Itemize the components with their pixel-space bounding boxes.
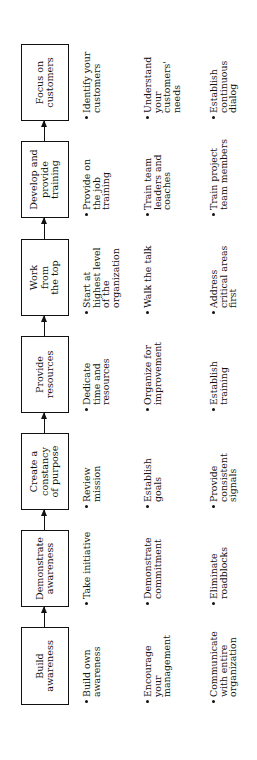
bullet-item: Establish continuous dialog [209,61,238,119]
bullet-item: Communicate with entire organization [209,631,238,703]
bullet-item: Encourage your management [143,635,172,703]
arrow-right-icon [44,413,45,433]
bullet-item: Start at highest level of the organizati… [82,247,120,314]
bullet-item: Take initiative [82,532,92,605]
arrow-right-icon [44,218,45,239]
stage-title: Create a constancy of purpose [29,446,60,498]
bullet-item: Identify your customers [82,52,101,119]
stage-title: Provide resources [35,351,56,399]
arrow-right-icon [44,510,45,530]
stage-box-create-constancy: Create a constancy of purpose [21,433,69,510]
bullet-item: Provide consistent signals [209,453,238,508]
bullet-item: Review mission [82,466,101,508]
arrow-right-icon [44,607,45,627]
stage-title: Build awareness [35,640,56,692]
bullet-item: Address critical areas first [209,246,238,314]
bullet-item: Eliminate roadblocks [209,547,228,605]
stage-box-build-awareness: Build awareness [21,627,69,705]
stage-box-work-from-top: Work from the top [21,239,69,316]
stage-box-focus-customers: Focus on customers [21,44,69,121]
bullet-item: Build own awareness [82,647,101,703]
bullet-item: Organize for improvement [143,342,162,411]
stage-title: Demonstrate awareness [35,537,56,600]
bullet-item: Dedicate time and resources [82,358,111,411]
bullet-item: Establish training [209,361,228,411]
stage-title: Develop and provide training [29,149,60,210]
stage-box-demonstrate-awareness: Demonstrate awareness [21,530,69,607]
stage-title: Focus on customers [35,57,56,107]
arrow-right-icon [44,121,45,141]
bullet-item: Train team leaders and coaches [143,154,172,216]
stage-title: Work from the top [29,260,60,295]
stage-box-develop-training: Develop and provide training [21,141,69,218]
bullet-item: Understand your customers' needs [143,57,181,119]
bullet-item: Walk the talk [143,246,153,314]
bullet-item: Establish goals [143,458,162,508]
stage-box-provide-resources: Provide resources [21,336,69,413]
process-flow-diagram: Build awareness Build own awareness Enco… [0,0,257,760]
arrow-right-icon [44,316,45,336]
bullet-item: Demonstrate commitment [143,537,162,605]
bullet-item: Train project team members [209,139,228,216]
bullet-item: Provide on the job training [82,159,111,216]
